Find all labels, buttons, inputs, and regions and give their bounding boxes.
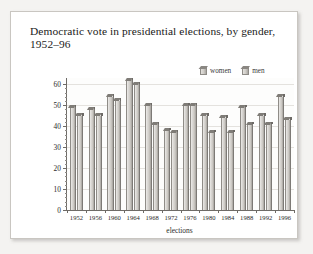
x-axis-tick-label: 1984	[221, 214, 234, 221]
bar-group[interactable]	[220, 78, 235, 210]
y-axis-tick-label: 40	[54, 122, 61, 131]
bar-side-face	[113, 94, 115, 97]
x-axis-tick-label: 1968	[146, 214, 159, 221]
y-axis-minor-tick	[65, 193, 68, 194]
y-axis-tick	[63, 168, 67, 169]
bar-group[interactable]	[126, 78, 141, 210]
bar-women-1976[interactable]	[183, 105, 189, 210]
y-axis-minor-tick	[65, 172, 68, 173]
x-axis-tick	[143, 210, 144, 213]
x-axis-tick-label: 1952	[70, 214, 83, 221]
y-axis-minor-tick	[65, 181, 68, 182]
bar-group[interactable]	[88, 78, 103, 210]
bar-group[interactable]	[163, 78, 178, 210]
bar-men-1988[interactable]	[247, 124, 253, 210]
plot-area: 0102030405060195219561960196419681972197…	[66, 78, 294, 211]
bar-side-face	[290, 117, 292, 120]
bar-group[interactable]	[239, 78, 254, 210]
bar-side-face	[245, 105, 247, 108]
bar-women-1960[interactable]	[107, 97, 113, 210]
bar-women-1980[interactable]	[202, 116, 208, 210]
bar-side-face	[226, 115, 228, 118]
bar-women-1956[interactable]	[89, 109, 95, 210]
y-axis-tick	[63, 105, 67, 106]
x-axis-tick-label: 1980	[202, 214, 215, 221]
bar-side-face	[94, 107, 96, 110]
bar-side-face	[271, 122, 273, 125]
bar-side-face	[252, 122, 254, 125]
bar-men-1964[interactable]	[134, 84, 140, 210]
y-axis-minor-tick	[65, 202, 68, 203]
bar-group[interactable]	[277, 78, 292, 210]
bar-swatch-icon	[242, 67, 249, 75]
bar-side-face	[169, 128, 171, 131]
y-axis-minor-tick	[65, 206, 68, 207]
bar-men-1972[interactable]	[171, 132, 177, 210]
x-axis-title: elections	[66, 226, 293, 235]
bar-men-1992[interactable]	[266, 124, 272, 210]
bar-side-face	[75, 105, 77, 108]
bar-side-face	[283, 94, 285, 97]
x-axis-tick-label: 1960	[108, 214, 121, 221]
bar-women-1984[interactable]	[221, 118, 227, 210]
legend-item-men: men	[242, 67, 264, 75]
x-axis-tick	[275, 210, 276, 213]
bar-group[interactable]	[201, 78, 216, 210]
bar-women-1972[interactable]	[164, 130, 170, 210]
bar-men-1956[interactable]	[96, 116, 102, 210]
x-axis-tick	[237, 210, 238, 213]
legend-label-men: men	[252, 67, 264, 75]
y-axis-tick-label: 50	[54, 101, 61, 110]
y-axis-tick-label: 10	[54, 185, 61, 194]
bar-group[interactable]	[258, 78, 273, 210]
bar-men-1996[interactable]	[285, 120, 291, 210]
y-axis-tick-label: 20	[54, 164, 61, 173]
y-axis-minor-tick	[65, 101, 68, 102]
x-axis-tick-label: 1956	[89, 214, 102, 221]
bar-women-1964[interactable]	[126, 80, 132, 210]
bar-group[interactable]	[145, 78, 160, 210]
bar-women-1992[interactable]	[259, 116, 265, 210]
bar-side-face	[82, 113, 84, 116]
bar-men-1968[interactable]	[153, 124, 159, 210]
bar-men-1976[interactable]	[190, 105, 196, 210]
x-axis-tick	[181, 210, 182, 213]
bar-side-face	[207, 113, 209, 116]
bar-side-face	[120, 98, 122, 101]
legend-label-women: women	[210, 67, 231, 75]
y-axis-minor-tick	[65, 114, 68, 115]
x-axis-tick	[124, 210, 125, 213]
y-axis-minor-tick	[65, 197, 68, 198]
bar-women-1968[interactable]	[145, 105, 151, 210]
bar-women-1996[interactable]	[278, 97, 284, 210]
bar-side-face	[132, 78, 134, 81]
y-axis-tick-label: 30	[54, 143, 61, 152]
y-axis-minor-tick	[65, 97, 68, 98]
x-axis-tick	[105, 210, 106, 213]
x-axis-tick-label: 1976	[183, 214, 196, 221]
x-axis-tick	[162, 210, 163, 213]
bar-men-1960[interactable]	[115, 101, 121, 210]
x-axis-tick	[218, 210, 219, 213]
bar-side-face	[196, 103, 198, 106]
x-axis-tick-label: 1972	[164, 214, 177, 221]
bar-group[interactable]	[182, 78, 197, 210]
bar-men-1980[interactable]	[209, 132, 215, 210]
bar-group[interactable]	[107, 78, 122, 210]
bar-side-face	[188, 103, 190, 106]
bar-group[interactable]	[69, 78, 84, 210]
y-axis-minor-tick	[65, 139, 68, 140]
legend-item-women: women	[200, 67, 231, 75]
bar-men-1952[interactable]	[77, 116, 83, 210]
bar-side-face	[177, 130, 179, 133]
bar-side-face	[233, 130, 235, 133]
y-axis-minor-tick	[65, 88, 68, 89]
bar-women-1988[interactable]	[240, 107, 246, 210]
x-axis-tick	[294, 210, 295, 213]
bar-women-1952[interactable]	[70, 107, 76, 210]
x-axis-tick-label: 1996	[278, 214, 291, 221]
x-axis-tick	[67, 210, 68, 213]
bar-side-face	[151, 103, 153, 106]
bar-side-face	[101, 113, 103, 116]
bar-men-1984[interactable]	[228, 132, 234, 210]
